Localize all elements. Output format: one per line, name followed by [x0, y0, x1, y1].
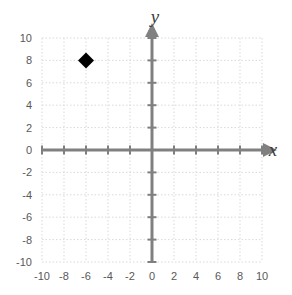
y-tick-label: 10: [20, 32, 32, 44]
y-tick-label: -2: [22, 166, 32, 178]
x-tick-label: -8: [59, 270, 69, 282]
y-axis-title: y: [149, 6, 160, 27]
coordinate-plane-figure: -10-8-6-4-20246810 1086420-2-4-6-8-10 (-…: [0, 0, 292, 295]
x-tick-label: 8: [237, 270, 243, 282]
x-tick-label: -10: [34, 270, 50, 282]
coordinate-plane-svg: -10-8-6-4-20246810 1086420-2-4-6-8-10 (-…: [0, 0, 292, 295]
y-tick-label: -4: [22, 189, 32, 201]
x-tick-label: -6: [81, 270, 91, 282]
y-tick-label: -10: [16, 256, 32, 268]
x-tick-label: 10: [256, 270, 268, 282]
y-tick-label: 4: [26, 99, 32, 111]
y-tick-label: 2: [26, 122, 32, 134]
y-tick-label: 6: [26, 77, 32, 89]
x-axis-title: x: [268, 139, 278, 160]
x-tick-label: 0: [149, 270, 155, 282]
y-tick-label: 8: [26, 54, 32, 66]
x-tick-label: 6: [215, 270, 221, 282]
chart-background: [0, 0, 292, 295]
x-tick-label: -2: [125, 270, 135, 282]
x-tick-label: -4: [103, 270, 113, 282]
y-tick-label: 0: [26, 144, 32, 156]
x-tick-label: 2: [171, 270, 177, 282]
x-tick-label: 4: [193, 270, 199, 282]
y-tick-label: -6: [22, 211, 32, 223]
y-tick-label: -8: [22, 234, 32, 246]
